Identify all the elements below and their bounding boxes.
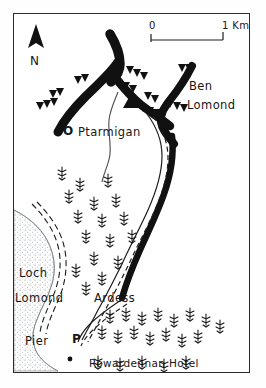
- scale-end-label: 1 Km.: [222, 20, 250, 31]
- label-ardess: Ardess: [94, 291, 135, 305]
- label-ptarmigan: Ptarmigan: [78, 125, 141, 139]
- compass-label: N: [30, 54, 39, 68]
- label-ben-lomond-line1: Ben: [189, 79, 212, 93]
- label-loch-lomond-line1: Loch: [19, 266, 47, 280]
- map-geography-layer: [14, 14, 250, 373]
- ridge-south-spine: [122, 136, 173, 298]
- label-ben-lomond-line2: Lomond: [187, 98, 235, 112]
- ptarmigan-circle-marker-icon: O: [63, 124, 74, 138]
- conifer-woodland: [58, 167, 224, 372]
- label-pier: Pier: [25, 334, 48, 348]
- scale-bar-graphic: [151, 32, 223, 42]
- map-frame: N 0 1 Km. Ben Lomond O Ptarmigan Loch Lo…: [13, 13, 250, 373]
- label-loch-lomond-line2: Lomond: [15, 291, 63, 305]
- footpath-main: [82, 114, 168, 342]
- pier-building-dot: [68, 357, 73, 362]
- map-root: N 0 1 Km. Ben Lomond O Ptarmigan Loch Lo…: [0, 0, 266, 388]
- label-rowardennan-hotel: Rowardennan Hotel: [89, 357, 199, 369]
- pier-parking-marker-icon: P: [72, 332, 81, 346]
- scale-start-label: 0: [149, 20, 156, 31]
- north-arrow-icon: [28, 24, 44, 48]
